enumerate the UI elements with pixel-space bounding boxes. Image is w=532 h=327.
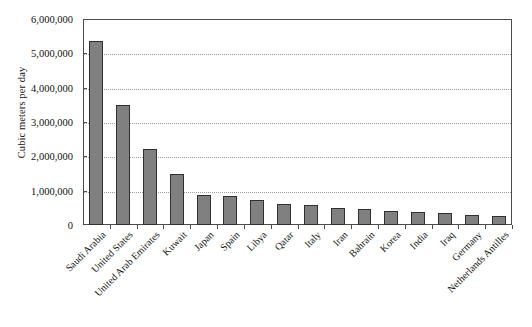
- x-axis-tick-label: Korea: [378, 229, 403, 254]
- bar: [465, 215, 479, 225]
- x-axis-tick-mark: [137, 225, 138, 229]
- bar-chart-figure: Cubic meters per day 01,000,0002,000,000…: [0, 0, 532, 327]
- y-axis-tick-labels: 01,000,0002,000,0003,000,0004,000,0005,0…: [0, 19, 78, 225]
- x-axis-tick-mark: [432, 225, 433, 229]
- x-axis-tick-mark: [512, 225, 513, 229]
- y-axis-tick-label: 4,000,000: [31, 82, 73, 93]
- bar: [223, 196, 237, 225]
- x-axis-tick-mark: [190, 225, 191, 229]
- y-axis-tick-label: 6,000,000: [31, 14, 73, 25]
- y-axis-tick-mark: [83, 88, 87, 89]
- x-axis-tick-mark: [110, 225, 111, 229]
- x-axis-tick-mark: [324, 225, 325, 229]
- x-axis-tick-label: Iran: [330, 229, 349, 248]
- x-axis-tick-label: Bahrain: [346, 229, 376, 259]
- y-axis-tick-mark: [83, 122, 87, 123]
- y-axis-tick-mark: [83, 53, 87, 54]
- bar: [143, 149, 157, 225]
- x-axis-tick-label: Qatar: [272, 229, 295, 252]
- bar: [89, 41, 103, 225]
- bar: [116, 105, 130, 225]
- bars-layer: [83, 19, 512, 225]
- bar: [438, 213, 452, 225]
- x-axis-tick-labels: Saudi ArabiaUnited StatesUnited Arab Emi…: [83, 225, 532, 327]
- x-axis-tick-mark: [217, 225, 218, 229]
- y-axis-tick-label: 5,000,000: [31, 48, 73, 59]
- x-axis-tick-mark: [378, 225, 379, 229]
- y-axis-tick-mark: [83, 156, 87, 157]
- x-axis-tick-mark: [485, 225, 486, 229]
- y-axis-tick-label: 2,000,000: [31, 151, 73, 162]
- x-axis-tick-mark: [351, 225, 352, 229]
- x-axis-tick-mark: [271, 225, 272, 229]
- x-axis-tick-label: Japan: [192, 229, 216, 253]
- bar: [384, 211, 398, 225]
- y-axis-tick-label: 1,000,000: [31, 185, 73, 196]
- y-axis-tick-mark: [83, 191, 87, 192]
- x-axis-tick-label: Italy: [302, 229, 323, 250]
- bar: [250, 200, 264, 225]
- x-axis-tick-mark: [298, 225, 299, 229]
- x-axis-tick-label: India: [408, 229, 430, 251]
- x-axis-tick-mark: [405, 225, 406, 229]
- y-axis-tick-label: 3,000,000: [31, 117, 73, 128]
- y-axis-tick-label: 0: [68, 220, 73, 231]
- bar: [277, 204, 291, 225]
- bar: [492, 216, 506, 225]
- x-axis-tick-mark: [163, 225, 164, 229]
- x-axis-tick-mark: [458, 225, 459, 229]
- x-axis-tick-label: Iraq: [438, 229, 457, 248]
- x-axis-tick-mark: [244, 225, 245, 229]
- bar: [331, 208, 345, 225]
- bar: [358, 209, 372, 225]
- bar: [197, 195, 211, 225]
- x-axis-tick-label: Kuwait: [160, 229, 189, 258]
- x-axis-tick-label: Spain: [218, 229, 242, 253]
- bar: [304, 205, 318, 225]
- bar: [411, 212, 425, 225]
- bar: [170, 174, 184, 226]
- x-axis-tick-label: Libya: [245, 229, 269, 253]
